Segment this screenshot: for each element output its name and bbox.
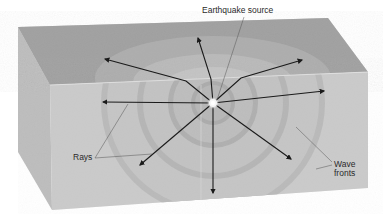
earthquake-source-label: Earthquake source	[202, 6, 273, 15]
wave-fronts-label: Wave fronts	[334, 160, 355, 178]
wave-fronts-label-line2: fronts	[334, 169, 355, 178]
rays-label: Rays	[73, 153, 92, 162]
diagram-canvas	[0, 0, 383, 214]
seismic-diagram: Earthquake source Rays Wave fronts	[0, 0, 383, 214]
